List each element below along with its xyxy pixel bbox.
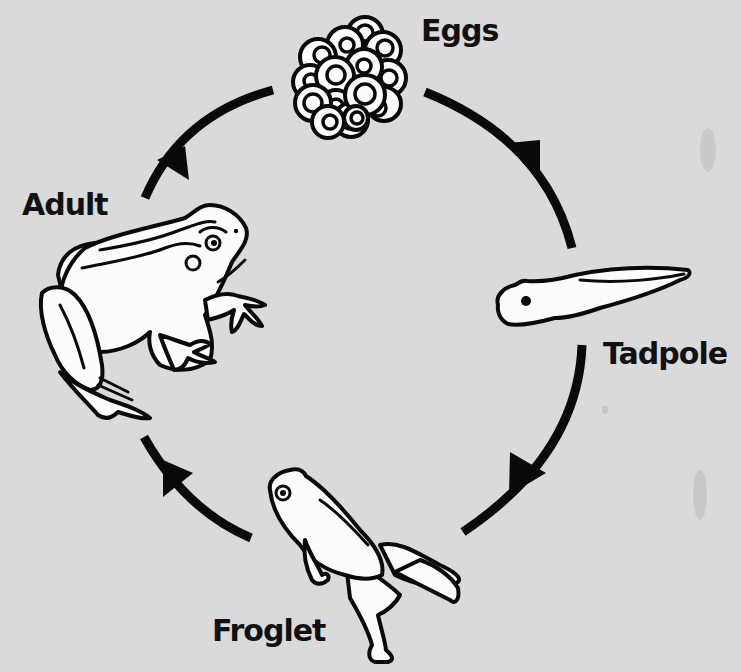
stage-label-tadpole: Tadpole	[603, 339, 727, 369]
scan-smudge	[602, 128, 716, 520]
stage-label-adult: Adult	[22, 190, 108, 220]
tadpole-illustration	[497, 268, 689, 325]
stage-label-froglet: Froglet	[212, 616, 325, 646]
arrow-eggs-to-tadpole	[425, 92, 572, 248]
frog-life-cycle-diagram: Eggs Tadpole Froglet Adult	[0, 0, 741, 672]
arrow-froglet-to-adult	[144, 437, 251, 538]
arrow-tadpole-to-froglet	[463, 345, 582, 532]
stage-label-eggs: Eggs	[421, 16, 498, 46]
eggs-illustration	[293, 17, 406, 138]
arrow-adult-to-eggs	[145, 90, 273, 198]
adult-frog-illustration	[41, 205, 265, 418]
